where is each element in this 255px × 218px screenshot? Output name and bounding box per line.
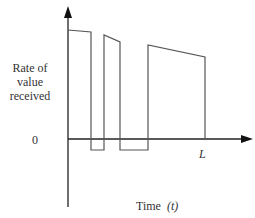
diagram-canvas <box>0 0 255 218</box>
y-axis-label-line-1: Rate of <box>0 61 60 75</box>
rate-waveform <box>68 30 205 150</box>
x-axis-arrow-icon <box>241 135 253 143</box>
rate-of-value-diagram: Rate of value received 0 L Time (t) <box>0 0 255 218</box>
y-axis-label: Rate of value received <box>0 61 60 103</box>
y-axis-label-line-3: received <box>0 89 60 103</box>
x-axis-label-variable: (t) <box>167 199 178 213</box>
x-axis-label: Time (t) <box>136 199 178 213</box>
y-axis-arrow-icon <box>64 6 72 18</box>
zero-tick-label: 0 <box>32 133 38 147</box>
y-axis-label-line-2: value <box>0 75 60 89</box>
L-tick-label: L <box>199 147 206 161</box>
x-axis-label-text: Time <box>136 199 161 213</box>
